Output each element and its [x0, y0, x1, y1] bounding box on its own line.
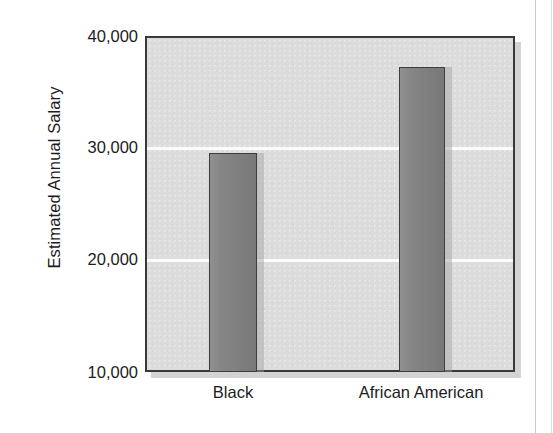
page-gutter-rule-outer	[551, 0, 552, 433]
plot-area	[145, 36, 515, 372]
bar-black[interactable]	[209, 153, 257, 372]
chart-figure: Estimated Annual Salary 40,000 30,000 20…	[0, 0, 553, 433]
gridline-30000	[147, 147, 513, 150]
y-tick-label-40000: 40,000	[52, 28, 138, 45]
bar-sheen	[400, 68, 444, 371]
bar-african-american[interactable]	[399, 67, 445, 372]
gridline-20000	[147, 259, 513, 262]
y-axis-tick-labels: 40,000 30,000 20,000 10,000	[52, 0, 138, 433]
plot-background	[147, 38, 513, 370]
x-tick-label-african-american: African American	[359, 384, 484, 401]
bar-sheen	[210, 154, 256, 371]
y-tick-label-30000: 30,000	[52, 139, 138, 156]
page-gutter-rule	[535, 0, 536, 433]
y-tick-label-10000: 10,000	[52, 364, 138, 381]
x-axis-tick-labels: Black African American	[145, 384, 515, 414]
y-tick-label-20000: 20,000	[52, 251, 138, 268]
x-tick-label-black: Black	[213, 384, 253, 401]
